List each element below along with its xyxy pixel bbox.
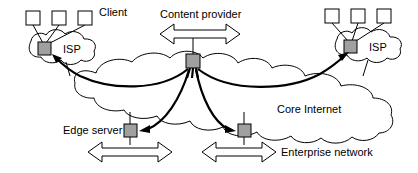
client-host-3 bbox=[78, 11, 92, 25]
client-host-2 bbox=[52, 11, 66, 25]
remote-host-1 bbox=[325, 9, 339, 23]
flow-fan-stem-2 bbox=[192, 68, 193, 78]
isp-left-label: ISP bbox=[63, 43, 81, 55]
core-internet-label: Core Internet bbox=[277, 103, 341, 115]
isp-right-label: ISP bbox=[369, 41, 387, 53]
isp-right-router bbox=[344, 40, 357, 53]
isp-left-router bbox=[38, 42, 51, 55]
content-provider-arrow bbox=[160, 24, 240, 44]
enterprise-network-label: Enterprise network bbox=[281, 146, 373, 158]
client-label: Client bbox=[99, 6, 127, 18]
edge-server-node bbox=[124, 124, 137, 137]
flow-to-edge-server-arrowhead bbox=[139, 125, 150, 133]
isp-right-stem bbox=[363, 60, 368, 76]
enterprise-node bbox=[238, 124, 251, 137]
edge-server-label: Edge server bbox=[63, 124, 123, 136]
remote-host-2 bbox=[351, 9, 365, 23]
content-provider-label: Content provider bbox=[160, 8, 242, 20]
network-diagram: Core Internet ISP ISP Client bbox=[0, 0, 418, 173]
client-host-1 bbox=[26, 11, 40, 25]
content-provider-server bbox=[186, 54, 200, 68]
remote-host-3 bbox=[377, 9, 391, 23]
enterprise-arrow bbox=[202, 142, 276, 162]
edge-server-group: Edge server bbox=[63, 112, 172, 162]
network-topology-svg: Core Internet ISP ISP Client bbox=[0, 0, 418, 173]
